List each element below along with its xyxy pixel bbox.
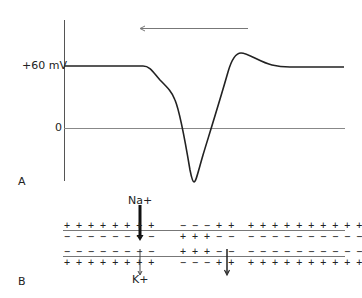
lower-left-inner-charges: − − − − − − − −: [64, 247, 154, 257]
lower-right-a-inner-charges: + + + − −: [180, 247, 234, 257]
lower-right-a-outer-charges: − − − + +: [180, 258, 234, 268]
lower-right-b-inner-charges: − − − − − − − − − −: [248, 247, 362, 257]
panel-a-label: A: [18, 176, 26, 188]
potential-trace: [65, 53, 344, 182]
direction-arrow-icon: [140, 26, 248, 31]
upper-right-a-inner-charges: + + + − −: [180, 232, 234, 242]
y-label-plus60: +60 mV: [22, 60, 67, 72]
na-ion-label: Na+: [128, 195, 152, 207]
upper-right-b-inner-charges: − − − − − − − − − −: [248, 232, 362, 242]
upper-left-inner-charges: − − − − − − − −: [64, 232, 154, 242]
upper-right-a-outer-charges: − − − + +: [180, 221, 234, 231]
lower-left-outer-charges: + + + + + + + +: [64, 258, 154, 268]
upper-right-b-outer-charges: + + + + + + + + + +: [248, 221, 362, 231]
upper-left-outer-charges: + + + + + + + +: [64, 221, 154, 231]
panel-b-label: B: [18, 276, 26, 288]
lower-right-b-outer-charges: + + + + + + + + + +: [248, 258, 362, 268]
k-ion-label: K+: [132, 274, 148, 286]
y-label-zero: 0: [55, 122, 62, 134]
